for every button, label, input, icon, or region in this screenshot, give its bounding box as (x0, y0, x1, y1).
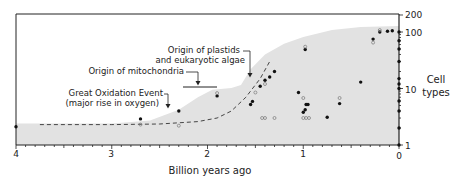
filled-point (397, 60, 400, 63)
y-tick-label-100: 100 (405, 28, 422, 38)
plot-area (14, 14, 403, 149)
filled-point (326, 116, 329, 119)
filled-point (359, 80, 362, 83)
max-cell-types-envelope (16, 26, 399, 145)
filled-point (306, 103, 309, 106)
filled-point (397, 30, 400, 33)
filled-point (338, 102, 341, 105)
filled-point (397, 126, 400, 129)
y-tick-label-200: 200 (405, 10, 422, 20)
filled-point (273, 70, 276, 73)
filled-point (371, 37, 374, 40)
x-axis-title: Billion years ago (169, 165, 252, 176)
x-tick-label-4: 4 (13, 149, 19, 159)
filled-point (397, 77, 400, 80)
filled-point (397, 47, 400, 50)
filled-point (397, 109, 400, 112)
filled-point (249, 103, 252, 106)
filled-point (251, 100, 254, 103)
cell-types-chart: 4 3 2 1 0 Billion years ago 200 100 10 1… (0, 0, 456, 183)
annotation-great-oxidation-event: Great Oxidation Event (major rise in oxy… (65, 88, 170, 109)
y-tick-label-1: 1 (405, 141, 411, 151)
x-tick-label-0: 0 (396, 151, 402, 161)
filled-point (268, 75, 271, 78)
filled-point (391, 29, 394, 32)
filled-point (263, 79, 266, 82)
filled-point (397, 39, 400, 42)
filled-point (397, 87, 400, 90)
filled-point (397, 143, 400, 146)
y-tick-label-10: 10 (405, 85, 417, 95)
annotation-goe-line1: Great Oxidation Event (69, 88, 164, 98)
y-axis-title-line1: Cell (427, 74, 446, 85)
annotation-goe-line2: (major rise in oxygen) (65, 98, 159, 108)
filled-point (397, 82, 400, 85)
filled-point (139, 117, 142, 120)
y-axis-title-line2: types (422, 87, 450, 98)
filled-point (304, 108, 307, 111)
filled-point (177, 109, 180, 112)
filled-point (397, 99, 400, 102)
filled-point (386, 30, 389, 33)
x-tick-label-2: 2 (204, 149, 210, 159)
filled-point (14, 125, 17, 128)
x-tick-label-3: 3 (108, 149, 114, 159)
x-tick-label-1: 1 (300, 149, 306, 159)
annotation-mitochondria: Origin of mitochondria (88, 66, 217, 87)
annotation-mito-text: Origin of mitochondria (88, 66, 184, 76)
filled-point (297, 91, 300, 94)
annotation-plastid-line1: Origin of plastids (168, 45, 241, 55)
annotation-plastid-line2: and eukaryotic algae (156, 55, 246, 65)
filled-point (259, 85, 262, 88)
